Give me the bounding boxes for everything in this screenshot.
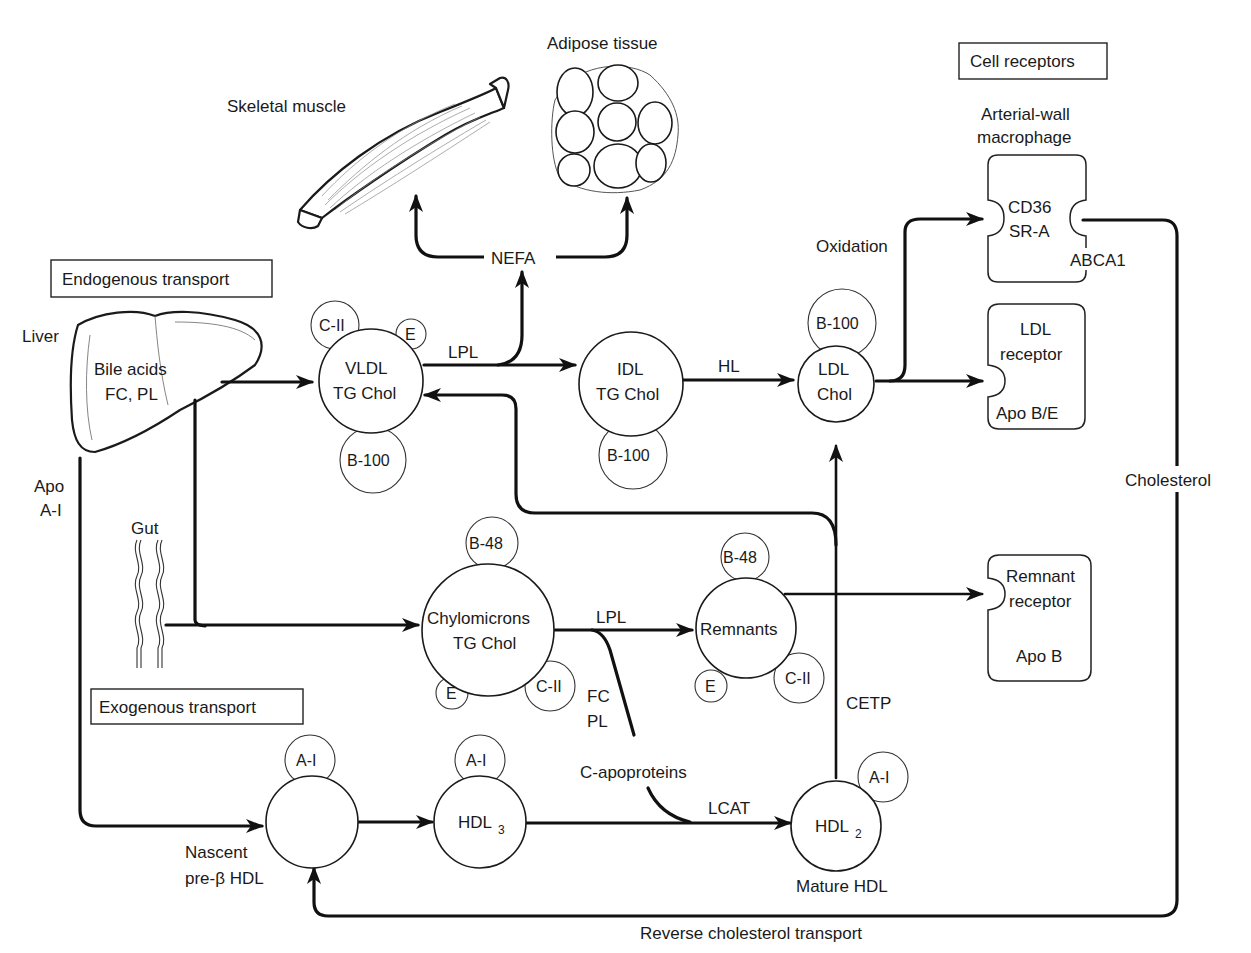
macrophage-receptor: Arterial-wall macrophage CD36 SR-A ABCA1 xyxy=(977,105,1142,282)
svg-text:Cholesterol: Cholesterol xyxy=(1125,471,1211,490)
svg-text:VLDL: VLDL xyxy=(345,359,388,378)
nascent-hdl-particle: A-I Nascent pre-β HDL xyxy=(185,735,358,888)
cell-receptors-label: Cell receptors xyxy=(959,43,1107,79)
lipoprotein-pathway-diagram: Endogenous transport Exogenous transport… xyxy=(0,0,1251,953)
svg-text:Arterial-wall: Arterial-wall xyxy=(981,105,1070,124)
svg-text:FC: FC xyxy=(587,687,610,706)
svg-text:Liver: Liver xyxy=(22,327,59,346)
svg-text:Endogenous transport: Endogenous transport xyxy=(62,270,230,289)
gut-icon: Gut xyxy=(131,519,164,668)
svg-text:Oxidation: Oxidation xyxy=(816,237,888,256)
svg-text:A-I: A-I xyxy=(40,501,62,520)
svg-text:ABCA1: ABCA1 xyxy=(1070,251,1126,270)
svg-text:receptor: receptor xyxy=(1009,592,1072,611)
svg-text:B-100: B-100 xyxy=(816,315,859,332)
chylomicron-particle: B-48 E C-II Chylomicrons TG Chol xyxy=(422,517,575,711)
svg-text:B-48: B-48 xyxy=(723,549,757,566)
svg-text:TG Chol: TG Chol xyxy=(453,634,516,653)
svg-text:Remnants: Remnants xyxy=(700,620,777,639)
svg-text:C-II: C-II xyxy=(536,678,562,695)
svg-text:CD36: CD36 xyxy=(1008,198,1051,217)
svg-text:A-I: A-I xyxy=(869,769,889,786)
flow-ldl-oxidation-to-cd36 xyxy=(890,219,982,381)
ldl-receptor: LDL receptor Apo B/E xyxy=(988,304,1085,429)
adipose-tissue-icon: Adipose tissue xyxy=(547,34,678,193)
svg-text:C-II: C-II xyxy=(785,670,811,687)
remnants-particle: B-48 E C-II Remnants xyxy=(695,533,824,703)
svg-text:A-I: A-I xyxy=(296,752,316,769)
svg-text:Mature HDL: Mature HDL xyxy=(796,877,888,896)
svg-text:LDL: LDL xyxy=(818,360,849,379)
svg-text:Apo: Apo xyxy=(34,477,64,496)
svg-text:NEFA: NEFA xyxy=(491,249,536,268)
svg-text:Apo B/E: Apo B/E xyxy=(996,404,1058,423)
hdl3-particle: A-I HDL 3 xyxy=(434,735,526,868)
svg-text:CETP: CETP xyxy=(846,694,891,713)
svg-text:E: E xyxy=(705,678,716,695)
endogenous-transport-label: Endogenous transport xyxy=(51,260,272,297)
svg-text:3: 3 xyxy=(498,823,505,837)
svg-text:Adipose tissue: Adipose tissue xyxy=(547,34,658,53)
svg-text:Remnant: Remnant xyxy=(1006,567,1075,586)
svg-text:C-II: C-II xyxy=(319,317,345,334)
exogenous-transport-label: Exogenous transport xyxy=(91,689,303,724)
svg-text:B-100: B-100 xyxy=(347,452,390,469)
svg-text:2: 2 xyxy=(855,827,862,841)
svg-text:Skeletal muscle: Skeletal muscle xyxy=(227,97,346,116)
svg-text:E: E xyxy=(405,326,416,343)
svg-text:Apo B: Apo B xyxy=(1016,647,1062,666)
svg-text:HDL: HDL xyxy=(815,817,849,836)
flow-liver-apoa1-to-nascent-hdl xyxy=(80,458,262,826)
svg-text:Chylomicrons: Chylomicrons xyxy=(427,609,530,628)
idl-particle: B-100 IDL TG Chol xyxy=(579,332,683,489)
svg-text:Chol: Chol xyxy=(817,385,852,404)
svg-text:Exogenous transport: Exogenous transport xyxy=(99,698,256,717)
svg-text:Nascent: Nascent xyxy=(185,843,248,862)
flow-nefa-to-adipose xyxy=(555,198,627,257)
svg-text:macrophage: macrophage xyxy=(977,128,1072,147)
svg-text:Bile acids: Bile acids xyxy=(94,360,167,379)
remnant-receptor: Remnant receptor Apo B xyxy=(988,555,1091,681)
svg-text:LPL: LPL xyxy=(596,608,626,627)
svg-text:C-apoproteins: C-apoproteins xyxy=(580,763,687,782)
svg-text:HL: HL xyxy=(718,357,740,376)
svg-text:Gut: Gut xyxy=(131,519,159,538)
flow-lpl-to-nefa xyxy=(498,272,522,365)
svg-text:pre-β HDL: pre-β HDL xyxy=(185,869,264,888)
svg-text:B-100: B-100 xyxy=(607,447,650,464)
svg-text:TG Chol: TG Chol xyxy=(333,384,396,403)
svg-text:FC, PL: FC, PL xyxy=(105,385,158,404)
svg-text:LCAT: LCAT xyxy=(708,799,750,818)
svg-text:TG Chol: TG Chol xyxy=(596,385,659,404)
svg-text:Reverse cholesterol transport: Reverse cholesterol transport xyxy=(640,924,862,943)
flow-nefa-to-muscle xyxy=(416,196,484,257)
svg-text:B-48: B-48 xyxy=(469,535,503,552)
svg-text:receptor: receptor xyxy=(1000,345,1063,364)
svg-text:LPL: LPL xyxy=(448,343,478,362)
hdl2-particle: A-I HDL 2 Mature HDL xyxy=(791,752,908,896)
svg-text:A-I: A-I xyxy=(466,752,486,769)
svg-text:LDL: LDL xyxy=(1020,320,1051,339)
svg-text:PL: PL xyxy=(587,712,608,731)
ldl-particle: B-100 LDL Chol xyxy=(798,289,876,422)
flow-capoproteins-to-lcat xyxy=(648,788,690,822)
svg-text:SR-A: SR-A xyxy=(1009,222,1050,241)
svg-text:HDL: HDL xyxy=(458,813,492,832)
vldl-particle: C-II E B-100 VLDL TG Chol xyxy=(311,301,426,493)
skeletal-muscle-icon: Skeletal muscle xyxy=(227,78,509,228)
svg-text:Cell receptors: Cell receptors xyxy=(970,52,1075,71)
svg-text:IDL: IDL xyxy=(617,360,643,379)
flow-liver-to-chylomicron-line xyxy=(195,400,205,626)
